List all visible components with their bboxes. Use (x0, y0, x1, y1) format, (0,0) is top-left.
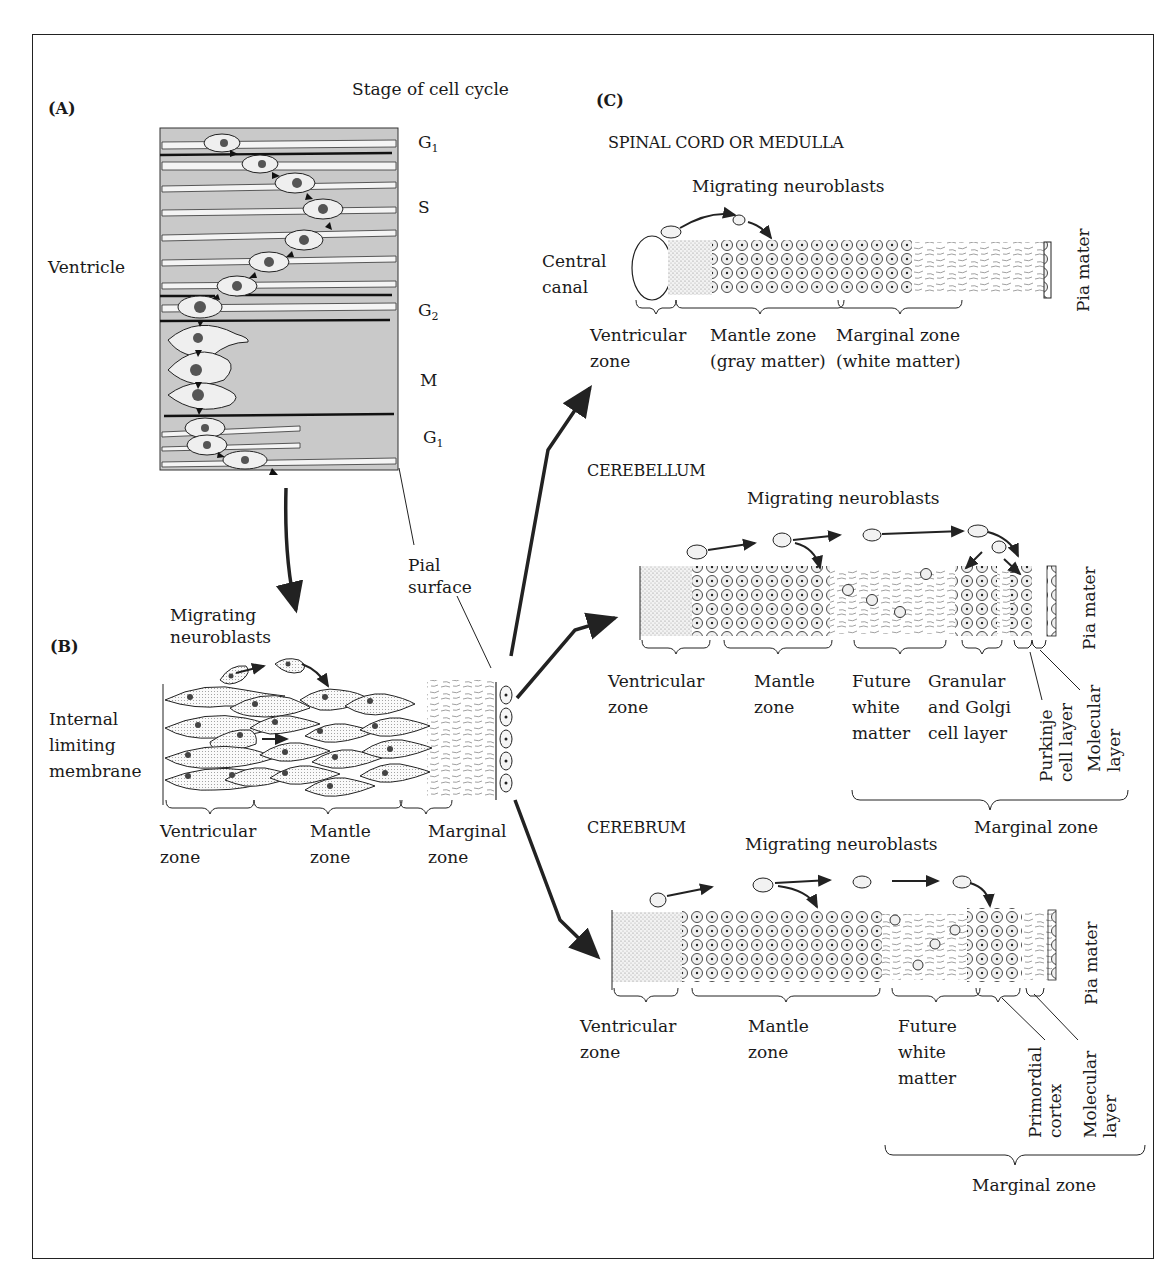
panel-b-tag: (B) (50, 634, 79, 659)
panel-a-tag: (A) (48, 96, 76, 121)
ventricle-label: Ventricle (48, 255, 125, 280)
panel-c-tag: (C) (596, 88, 624, 113)
cerebrum-migrating-label: Migrating neuroblasts (745, 832, 938, 857)
cerebellum-zone-future-white-matter: Futurewhitematter (852, 668, 911, 746)
cerebrum-primordial-cortex-label: Primordialcortex (1025, 1047, 1065, 1138)
spinal-zone-mantle: Mantle zone(gray matter) (710, 322, 826, 374)
panel-a-cell-cycle-drawing (160, 128, 414, 545)
stage-m: M (420, 368, 437, 393)
panel-b-migrating-label: Migrating neuroblasts (170, 604, 271, 648)
cerebrum-marginal-zone-label: Marginal zone (972, 1173, 1096, 1198)
stage-g1-top: G1 (418, 130, 439, 161)
cerebrum-zone-future-white-matter: Futurewhitematter (898, 1013, 957, 1091)
cerebellum-zone-granular-golgi: Granularand Golgicell layer (928, 668, 1011, 746)
arrow-a-to-b (286, 488, 296, 610)
panel-b-zone-mantle: Mantlezone (310, 818, 371, 870)
cerebrum-zone-mantle: Mantlezone (748, 1013, 809, 1065)
cerebellum-migrating-label: Migrating neuroblasts (747, 486, 940, 511)
spinal-cord-drawing (632, 214, 1051, 314)
pial-surface-label: Pial surface (408, 554, 472, 598)
internal-limiting-membrane-label: Internal limiting membrane (49, 706, 141, 784)
cerebellum-marginal-zone-label: Marginal zone (974, 815, 1098, 840)
stage-g1-bottom: G1 (423, 425, 444, 456)
spinal-zone-marginal: Marginal zone(white matter) (836, 322, 961, 374)
spinal-migrating-label: Migrating neuroblasts (692, 174, 885, 199)
cerebellum-pia-mater-label: Pia mater (1078, 566, 1100, 650)
spinal-cord-title: SPINAL CORD OR MEDULLA (608, 130, 843, 155)
cerebellum-title: CEREBELLUM (587, 458, 705, 483)
cerebrum-pia-mater-label: Pia mater (1080, 921, 1102, 1005)
cerebellum-zone-mantle: Mantlezone (754, 668, 815, 720)
panel-b-zone-ventricular: Ventricularzone (160, 818, 256, 870)
cell-cycle-title: Stage of cell cycle (352, 77, 509, 102)
panel-b-zone-marginal: Marginalzone (428, 818, 507, 870)
stage-s: S (418, 195, 430, 220)
cerebrum-title: CEREBRUM (587, 815, 686, 840)
cerebellum-molecular-label: Molecularlayer (1084, 685, 1124, 772)
stage-g2: G2 (418, 298, 439, 329)
cerebellum-zone-ventricular: Ventricularzone (608, 668, 704, 720)
cerebellum-purkinje-label: Purkinjecell layer (1036, 703, 1076, 782)
cerebrum-drawing (612, 876, 1145, 1165)
spinal-pia-mater-label: Pia mater (1072, 228, 1094, 312)
cerebrum-zone-ventricular: Ventricularzone (580, 1013, 676, 1065)
central-canal-label: Centralcanal (542, 248, 607, 300)
spinal-zone-ventricular: Ventricularzone (590, 322, 686, 374)
cerebrum-molecular-label: Molecularlayer (1080, 1051, 1120, 1138)
